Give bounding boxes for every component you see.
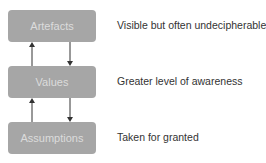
arrow-up-icon [29,42,35,66]
connector-arrows [0,0,266,163]
arrow-down-icon [67,42,73,66]
arrow-down-icon [67,98,73,122]
arrow-up-icon [29,98,35,122]
